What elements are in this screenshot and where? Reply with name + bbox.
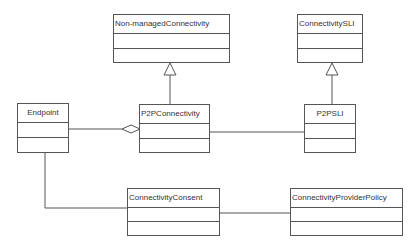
class-operations [298, 49, 362, 63]
class-name: ConnectivityProviderPolicy [291, 189, 402, 208]
generalization-arrow-icon [164, 63, 176, 75]
class-p2p-connectivity[interactable]: P2PConnectivity [139, 104, 210, 153]
class-attributes [114, 34, 229, 49]
class-attributes [128, 208, 219, 222]
class-operations [140, 139, 209, 153]
class-connectivity-provider-policy[interactable]: ConnectivityProviderPolicy [290, 188, 403, 236]
class-attributes [140, 124, 209, 139]
class-name: P2PSLI [305, 105, 355, 124]
class-p2psli[interactable]: P2PSLI [304, 104, 356, 153]
class-attributes [305, 124, 355, 139]
class-operations [291, 222, 402, 235]
class-connectivity-sli[interactable]: ConnectivitySLI [297, 14, 363, 63]
generalization-arrow-icon [326, 63, 338, 75]
aggregation-diamond-icon [122, 125, 140, 133]
association-line-endpoint-consent [45, 152, 127, 208]
class-attributes [298, 34, 362, 49]
class-attributes [18, 123, 68, 138]
class-name: Non-managedConnectivity [114, 15, 229, 34]
class-name: ConnectivityConsent [128, 189, 219, 208]
class-operations [128, 222, 219, 235]
class-operations [114, 49, 229, 63]
class-operations [18, 138, 68, 152]
class-name: Endpoint [18, 104, 68, 123]
class-operations [305, 139, 355, 153]
class-connectivity-consent[interactable]: ConnectivityConsent [127, 188, 220, 236]
class-name: P2PConnectivity [140, 105, 209, 124]
class-name: ConnectivitySLI [298, 15, 362, 34]
class-attributes [291, 208, 402, 222]
class-endpoint[interactable]: Endpoint [17, 103, 69, 153]
class-non-managed-connectivity[interactable]: Non-managedConnectivity [113, 14, 230, 63]
